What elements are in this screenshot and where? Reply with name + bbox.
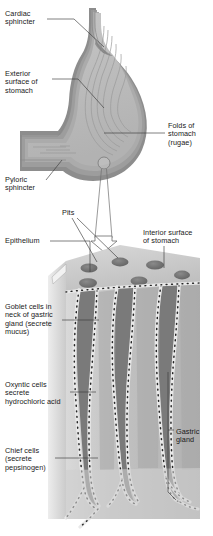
label-exterior-surface-of-stomach: Exterior surface of stomach — [5, 70, 38, 95]
label-gastric-gland: Gastric gland — [176, 428, 199, 445]
callout-circle — [98, 157, 110, 169]
callout-ray-right — [107, 169, 113, 238]
gastric-mucosa-block-group — [48, 245, 200, 527]
pit-2 — [112, 258, 129, 267]
stomach-section-group — [20, 8, 147, 252]
label-epithelium: Epithelium — [5, 237, 40, 245]
pit-3 — [146, 260, 164, 269]
label-folds-of-stomach-rugae: Folds of stomach (rugae) — [168, 122, 196, 147]
label-pits: Pits — [62, 209, 74, 217]
block-base-shading — [66, 468, 200, 519]
label-interior-surface-of-stomach: Interior surface of stomach — [143, 229, 192, 246]
label-goblet-cells: Goblet cells in neck of gastric gland (s… — [5, 303, 53, 337]
leader-pits-a — [72, 218, 97, 262]
label-cardiac-sphincter: Cardiac sphincter — [5, 10, 35, 27]
pit-4 — [79, 278, 97, 288]
label-pyloric-sphincter: Pyloric sphincter — [5, 176, 35, 193]
label-oxyntic-cells: Oxyntic cells secrete hydrochloric acid — [5, 381, 61, 406]
label-chief-cells: Chief cells (secrete pepsinogen) — [5, 447, 46, 472]
pit-1 — [81, 263, 98, 272]
stomach-anatomy-figure: Cardiac sphincter Exterior surface of st… — [0, 0, 213, 536]
pit-6 — [174, 271, 190, 280]
